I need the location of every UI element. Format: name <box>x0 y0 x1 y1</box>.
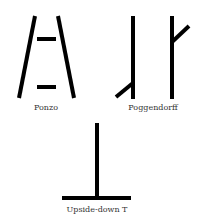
poggendorff-upper-diagonal <box>172 26 189 42</box>
ponzo-right-rail <box>58 16 74 98</box>
poggendorff-figure <box>116 16 189 99</box>
ponzo-left-rail <box>19 16 35 98</box>
upside-down-t-figure <box>62 123 131 198</box>
upside-down-t-label: Upside-down T <box>67 205 128 214</box>
ponzo-label: Ponzo <box>34 103 58 112</box>
poggendorff-label: Poggendorff <box>128 103 177 112</box>
poggendorff-lower-diagonal <box>116 83 133 97</box>
illusions-diagram: Ponzo Poggendorff Upside-down T <box>0 0 200 223</box>
ponzo-figure <box>19 16 74 98</box>
